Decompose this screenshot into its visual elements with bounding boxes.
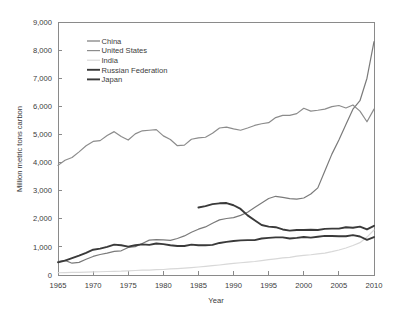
x-tick-label: 1980 <box>155 281 172 290</box>
x-tick-label: 2005 <box>330 281 347 290</box>
y-tick-label: 8,000 <box>33 46 52 55</box>
x-axis-title: Year <box>208 296 224 305</box>
x-axis-tick-labels: 1965197019751980198519901995200020052010 <box>50 271 383 290</box>
y-tick-label: 6,000 <box>33 102 52 111</box>
y-tick-label: 5,000 <box>33 130 52 139</box>
x-tick-label: 1995 <box>260 281 277 290</box>
y-axis-title: Million metric tons carbon <box>15 106 24 192</box>
emissions-line-chart: 01,0002,0003,0004,0005,0006,0007,0008,00… <box>0 0 395 311</box>
y-tick-label: 1,000 <box>33 243 52 252</box>
y-tick-label: 0 <box>48 271 52 280</box>
series-line-united-states <box>58 105 374 165</box>
x-tick-label: 1990 <box>225 281 242 290</box>
legend-label-japan: Japan <box>102 75 123 84</box>
series-line-japan <box>58 235 374 262</box>
series-line-russian-federation <box>198 203 374 231</box>
legend-label-russian-federation: Russian Federation <box>102 66 168 75</box>
x-tick-label: 1970 <box>85 281 102 290</box>
legend-label-india: India <box>102 56 119 65</box>
x-tick-label: 1985 <box>190 281 207 290</box>
chart-container: 01,0002,0003,0004,0005,0006,0007,0008,00… <box>0 0 395 311</box>
x-tick-label: 2010 <box>366 281 383 290</box>
x-tick-label: 2000 <box>295 281 312 290</box>
y-tick-label: 3,000 <box>33 186 52 195</box>
legend-label-china: China <box>102 37 123 46</box>
x-tick-label: 1965 <box>50 281 67 290</box>
y-tick-label: 2,000 <box>33 214 52 223</box>
y-tick-label: 4,000 <box>33 158 52 167</box>
chart-legend: ChinaUnited StatesIndiaRussian Federatio… <box>87 37 167 84</box>
y-tick-label: 7,000 <box>33 74 52 83</box>
legend-label-united-states: United States <box>102 46 148 55</box>
x-tick-label: 1975 <box>120 281 137 290</box>
y-tick-label: 9,000 <box>33 18 52 27</box>
